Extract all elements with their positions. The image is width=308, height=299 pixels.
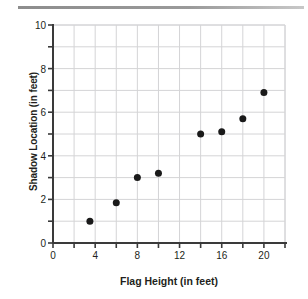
data-point xyxy=(239,115,246,122)
plot-area xyxy=(0,0,308,299)
data-point xyxy=(197,131,204,138)
data-point xyxy=(134,174,141,181)
data-point-markers xyxy=(86,89,267,225)
data-point xyxy=(155,170,162,177)
data-point xyxy=(260,89,267,96)
data-point xyxy=(86,218,93,225)
scatter-chart-figure: Shadow Location (in feet) Flag Height (i… xyxy=(0,0,308,299)
data-point xyxy=(113,199,120,206)
horizontal-gridlines xyxy=(53,25,285,221)
data-point xyxy=(218,128,225,135)
